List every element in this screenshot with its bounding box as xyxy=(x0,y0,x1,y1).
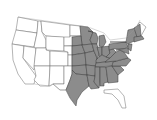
state-wy xyxy=(46,36,64,51)
state-az xyxy=(34,66,50,86)
state-nj xyxy=(128,44,132,51)
state-ks-east xyxy=(72,53,86,66)
state-nm xyxy=(49,66,64,86)
state-sd-east xyxy=(72,36,82,46)
us-range-map xyxy=(0,0,157,120)
state-ma-ct-ri xyxy=(134,36,144,42)
state-mi xyxy=(99,35,106,47)
shaded-region xyxy=(66,24,144,106)
state-ny xyxy=(110,28,137,44)
state-mt xyxy=(41,21,70,38)
state-ks-west xyxy=(68,55,72,66)
state-co xyxy=(50,51,68,66)
state-nd xyxy=(70,25,81,36)
state-fl xyxy=(104,89,126,108)
state-ar xyxy=(86,65,96,76)
state-ut xyxy=(34,48,50,66)
